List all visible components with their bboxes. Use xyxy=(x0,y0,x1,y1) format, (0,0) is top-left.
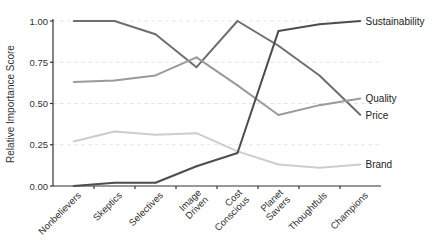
line-chart: 0.000.250.500.751.00NonbelieversSkeptics… xyxy=(0,0,439,250)
data-point-brand xyxy=(155,134,157,136)
x-tick-label: Thoughtfuls xyxy=(286,189,329,232)
axis-layer: 0.000.250.500.751.00NonbelieversSkeptics… xyxy=(30,16,382,237)
y-tick-label: 0.75 xyxy=(30,57,49,68)
x-tick-label: Nonbelievers xyxy=(36,189,83,236)
y-tick-label: 0.25 xyxy=(30,139,49,150)
data-point-price xyxy=(73,20,75,22)
series-line-quality xyxy=(74,57,361,115)
data-point-sustainability xyxy=(155,182,157,184)
data-point-quality xyxy=(155,75,157,77)
series-label-sustainability: Sustainability xyxy=(366,16,425,27)
x-tick-label-line: Thoughtfuls xyxy=(286,189,329,232)
data-point-sustainability xyxy=(237,152,239,154)
data-point-sustainability xyxy=(360,20,362,22)
data-point-price xyxy=(196,66,198,68)
data-point-price xyxy=(237,20,239,22)
grid-layer xyxy=(53,21,381,145)
y-tick-label: 0.50 xyxy=(30,98,49,109)
data-point-sustainability xyxy=(278,30,280,32)
x-tick-label-line: Selectives xyxy=(127,189,166,228)
data-point-quality xyxy=(237,85,239,87)
data-point-brand xyxy=(114,131,116,133)
series-label-brand: Brand xyxy=(366,159,393,170)
data-point-brand xyxy=(360,164,362,166)
series-label-quality: Quality xyxy=(366,93,397,104)
data-point-brand xyxy=(319,167,321,169)
x-tick-label: PlanetSavers xyxy=(256,187,292,223)
data-point-price xyxy=(360,114,362,116)
x-tick-label: Skeptics xyxy=(91,189,124,222)
data-point-quality xyxy=(319,104,321,106)
data-point-brand xyxy=(196,132,198,134)
data-point-quality xyxy=(360,98,362,100)
data-point-sustainability xyxy=(114,182,116,184)
series-line-price xyxy=(74,21,361,115)
x-tick-label: ImageDriven xyxy=(176,187,210,221)
data-point-sustainability xyxy=(196,165,198,167)
y-tick-label: 1.00 xyxy=(30,16,49,27)
data-point-quality xyxy=(196,57,198,59)
data-point-price xyxy=(114,20,116,22)
data-point-brand xyxy=(73,141,75,143)
x-tick-label-line: Champions xyxy=(328,189,370,231)
data-point-price xyxy=(278,45,280,47)
data-point-price xyxy=(155,33,157,35)
data-point-quality xyxy=(278,114,280,116)
x-tick-label: Selectives xyxy=(127,189,166,228)
x-tick-label-line: Nonbelievers xyxy=(36,189,83,236)
data-point-quality xyxy=(114,80,116,82)
y-tick-label: 0.00 xyxy=(30,181,49,192)
x-tick-label-line: Skeptics xyxy=(91,189,124,222)
x-tick-label: Champions xyxy=(328,189,370,231)
series-line-brand xyxy=(74,132,361,168)
y-axis-title: Relative Importance Score xyxy=(5,45,16,163)
data-point-sustainability xyxy=(319,24,321,26)
series-label-price: Price xyxy=(366,110,389,121)
data-point-sustainability xyxy=(73,185,75,187)
data-point-price xyxy=(319,75,321,77)
data-point-brand xyxy=(278,164,280,166)
data-point-quality xyxy=(73,81,75,83)
label-layer: PriceQualityBrandSustainability xyxy=(366,16,425,171)
x-tick-label: CostConscious xyxy=(205,187,251,233)
